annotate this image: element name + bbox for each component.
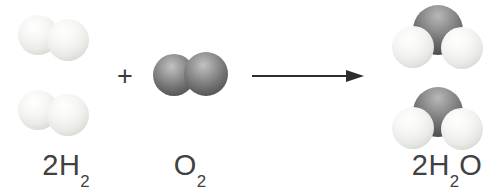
hydrogen-atom bbox=[47, 19, 89, 61]
reaction-diagram: + 2H2 O2 2H2O bbox=[0, 0, 497, 196]
label-2h2o-subscript: 2 bbox=[450, 172, 459, 191]
label-2h2: 2H2 bbox=[34, 150, 98, 182]
arrow-line bbox=[252, 75, 349, 77]
hydrogen-atom bbox=[392, 107, 434, 149]
plus-sign: + bbox=[112, 61, 138, 91]
label-2h2-base: 2H bbox=[42, 149, 80, 181]
hydrogen-atom bbox=[441, 27, 483, 69]
label-o2-subscript: 2 bbox=[197, 172, 206, 191]
reaction-arrow-icon bbox=[252, 68, 366, 84]
label-2h2o-suffix: O bbox=[459, 149, 482, 181]
hydrogen-atom bbox=[441, 108, 483, 150]
h2-molecule-1 bbox=[16, 13, 90, 59]
label-o2-base: O bbox=[174, 149, 197, 181]
h2-molecule-2 bbox=[16, 88, 90, 134]
o2-molecule bbox=[153, 52, 228, 98]
arrow-head bbox=[346, 70, 364, 82]
h2o-molecule-1 bbox=[392, 5, 483, 69]
h2o-molecule-2 bbox=[392, 87, 483, 151]
oxygen-atom bbox=[184, 52, 228, 96]
label-o2: O2 bbox=[158, 150, 222, 182]
hydrogen-atom bbox=[392, 26, 434, 68]
label-2h2o: 2H2O bbox=[402, 150, 492, 182]
hydrogen-atom bbox=[47, 94, 89, 136]
label-2h2o-base: 2H bbox=[412, 149, 450, 181]
label-2h2-subscript: 2 bbox=[80, 172, 89, 191]
